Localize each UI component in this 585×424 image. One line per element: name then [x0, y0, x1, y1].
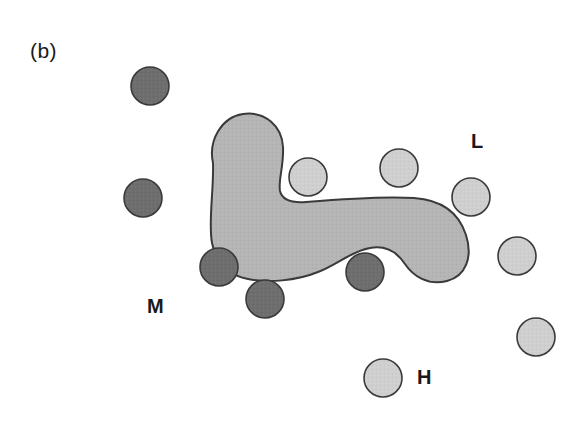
panel-label: (b)	[30, 40, 57, 61]
label-H: H	[417, 367, 432, 387]
figure-panel-b: (b)LMH	[0, 0, 585, 424]
circle-light-6	[364, 359, 402, 397]
label-M: M	[147, 296, 164, 316]
circle-dark-5	[346, 253, 384, 291]
circle-dark-3	[200, 248, 238, 286]
circle-light-1	[289, 158, 327, 196]
circle-light-2	[380, 149, 418, 187]
shaded-region-group	[211, 114, 469, 283]
circle-dark-1	[131, 67, 169, 105]
circle-light-4	[498, 237, 536, 275]
circle-light-3	[452, 178, 490, 216]
figure-canvas	[0, 0, 585, 424]
circle-dark-2	[124, 179, 162, 217]
label-L: L	[471, 131, 484, 151]
circle-light-5	[517, 318, 555, 356]
shaded-region	[211, 114, 469, 283]
circle-dark-4	[246, 280, 284, 318]
